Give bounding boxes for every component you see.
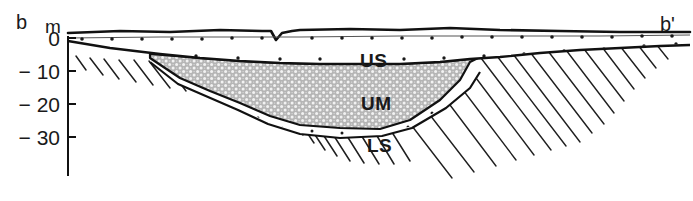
unit-label-um: UM	[361, 94, 392, 113]
cross-section-figure: b b' m 0 − 10 − 20 − 30 US UM LS	[0, 0, 693, 201]
unit-label-ls: LS	[367, 136, 392, 155]
axis-tick-label-minus10: − 10	[0, 61, 60, 82]
unit-label-us: US	[360, 51, 387, 70]
depth-axis	[68, 36, 76, 176]
axis-tick-label-minus30: − 30	[0, 127, 60, 148]
profile-end-label: b'	[660, 14, 675, 34]
axis-tick-label-0: 0	[18, 28, 60, 49]
axis-tick-label-minus20: − 20	[0, 94, 60, 115]
cross-section-drawing	[0, 0, 693, 201]
